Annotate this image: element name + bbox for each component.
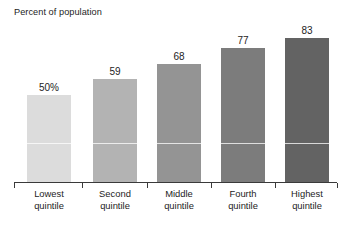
plot-area: 50% 59 68 77 83 <box>0 0 349 237</box>
x-axis-label-line1: Fourth <box>229 188 256 199</box>
bar-rect[interactable] <box>157 64 201 182</box>
x-axis-label-highest-quintile: Highest quintile <box>271 188 343 211</box>
x-axis-label-line2: quintile <box>13 200 85 212</box>
x-axis-label-line2: quintile <box>271 200 343 212</box>
bar-value-label: 83 <box>275 25 339 36</box>
x-axis-label-lowest-quintile: Lowest quintile <box>13 188 85 211</box>
bar-rect[interactable] <box>27 95 71 182</box>
bar-rect[interactable] <box>285 38 329 182</box>
x-axis-label-middle-quintile: Middle quintile <box>143 188 215 211</box>
x-axis-label-line1: Second <box>99 188 131 199</box>
bar-value-label: 68 <box>147 51 211 62</box>
x-axis-label-line1: Highest <box>291 188 323 199</box>
x-axis-label-fourth-quintile: Fourth quintile <box>207 188 279 211</box>
bar-value-label: 59 <box>83 66 147 77</box>
bar-chart: Percent of population 50% 59 68 77 83 <box>0 0 349 237</box>
bar-value-label: 77 <box>211 35 275 46</box>
bar-value-label: 50% <box>17 82 81 93</box>
bar-rect[interactable] <box>93 79 137 182</box>
x-axis-line <box>14 182 337 183</box>
x-axis-label-line1: Lowest <box>34 188 64 199</box>
bar-rect[interactable] <box>221 48 265 182</box>
x-axis-label-line1: Middle <box>165 188 193 199</box>
x-axis-label-line2: quintile <box>79 200 151 212</box>
x-axis-label-line2: quintile <box>207 200 279 212</box>
x-axis-label-second-quintile: Second quintile <box>79 188 151 211</box>
x-axis-label-line2: quintile <box>143 200 215 212</box>
